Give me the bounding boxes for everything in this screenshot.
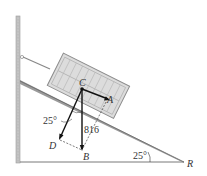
label-r: R bbox=[186, 158, 193, 169]
wall bbox=[16, 16, 20, 163]
label-angle-force: 25° bbox=[43, 115, 57, 126]
rope bbox=[20, 55, 50, 69]
label-force-magnitude: 816 bbox=[84, 124, 99, 135]
label-b: B bbox=[83, 151, 89, 162]
label-a: A bbox=[106, 94, 114, 105]
label-c: C bbox=[79, 77, 86, 88]
label-angle-incline: 25° bbox=[133, 150, 147, 161]
diagram-canvas: C A D B R 25° 816 25° bbox=[0, 0, 207, 176]
label-d: D bbox=[48, 140, 57, 151]
crate bbox=[47, 53, 129, 118]
